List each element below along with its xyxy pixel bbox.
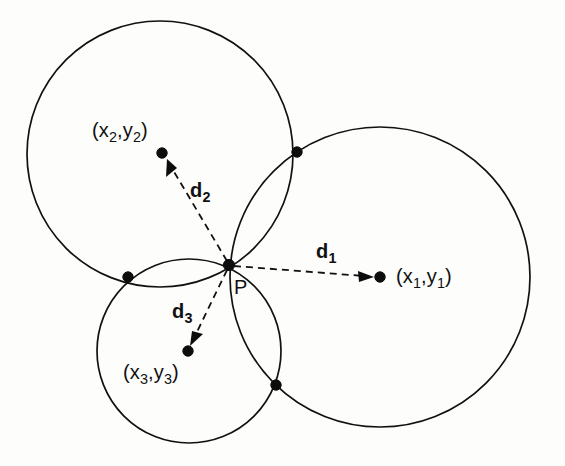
d1-arrow-head [358, 271, 374, 282]
point-p-dot [223, 259, 234, 270]
center-2-label: (x2,y2) [92, 120, 149, 144]
d1-label-base: d [316, 240, 328, 262]
center-1-label-open: (x [396, 265, 413, 287]
center-1-label-sub-y: 1 [437, 275, 445, 291]
d3-arrow-head [190, 331, 203, 346]
intersection-c1-c2-dot [292, 147, 302, 157]
center-3-label-comma: ,y [148, 361, 164, 383]
d2-label-base: d [190, 179, 202, 201]
center-3-label-close: ) [172, 361, 180, 383]
center-2-label-sub-x: 2 [109, 129, 117, 145]
center-2-label-comma: ,y [117, 119, 133, 141]
center-3-label: (x3,y3) [123, 362, 180, 386]
point-p-label: P [234, 277, 248, 297]
center-3-dot [183, 346, 193, 356]
center-2-dot [157, 148, 167, 158]
center-2-label-open: (x [92, 119, 109, 141]
center-3-label-open: (x [123, 361, 140, 383]
intersection-c1-c3-dot [271, 380, 281, 390]
center-1-label: (x1,y1) [396, 266, 453, 290]
d2-label-sub: 2 [202, 189, 210, 205]
trilateration-figure: (x1,y1) (x2,y2) (x3,y3) d1 d2 d3 P [0, 0, 565, 466]
center-1-dot [375, 272, 385, 282]
intersection-c2-c3-dot [123, 272, 133, 282]
center-1-label-sub-x: 1 [413, 275, 421, 291]
d3-label-sub: 3 [184, 310, 192, 326]
center-2-label-close: ) [141, 119, 149, 141]
center-3-label-sub-x: 3 [140, 371, 148, 387]
d1-label: d1 [316, 241, 336, 265]
center-3-label-sub-y: 3 [164, 371, 172, 387]
center-2-label-sub-y: 2 [133, 129, 141, 145]
diagram-canvas [0, 0, 565, 466]
d3-vector-line [195, 270, 227, 336]
d1-label-sub: 1 [328, 250, 336, 266]
center-1-label-comma: ,y [421, 265, 437, 287]
d3-label-base: d [172, 300, 184, 322]
d1-vector-line [234, 266, 364, 276]
center-1-label-close: ) [445, 265, 453, 287]
d2-label: d2 [190, 180, 210, 204]
d3-label: d3 [172, 301, 192, 325]
